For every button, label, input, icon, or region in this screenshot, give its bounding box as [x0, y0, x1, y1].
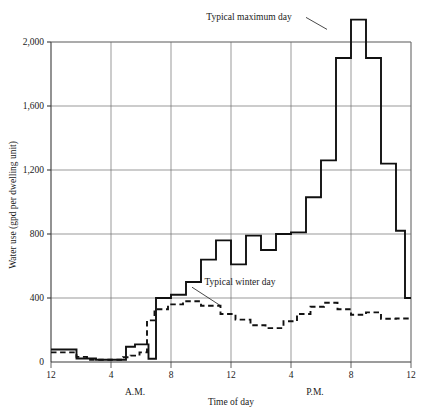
- y-axis-title: Water use (gpd per dwelling unit): [8, 141, 19, 269]
- x-period-label: A.M.: [125, 387, 145, 397]
- annotation-typical-winter-day: Typical winter day: [204, 277, 275, 287]
- annotation-leader-line-maximum: [306, 17, 327, 29]
- x-tick-marks: [51, 362, 411, 368]
- annotation-layer: Typical maximum dayTypical winter day: [192, 12, 327, 305]
- y-tick-label: 1,200: [23, 165, 45, 175]
- y-tick-label: 2,000: [23, 37, 45, 47]
- x-period-label: P.M.: [306, 387, 323, 397]
- x-tick-label: 4: [109, 370, 114, 380]
- y-tick-labels: 04008001,2001,6002,000: [23, 37, 51, 367]
- x-period-labels: A.M.P.M.: [125, 387, 324, 397]
- annotation-leader-line-winter: [192, 287, 221, 305]
- y-tick-label: 0: [39, 357, 44, 367]
- x-tick-labels: 1248124812: [46, 370, 416, 380]
- y-tick-label: 1,600: [23, 101, 45, 111]
- x-tick-label: 4: [289, 370, 294, 380]
- x-tick-label: 8: [349, 370, 354, 380]
- y-tick-label: 400: [30, 293, 45, 303]
- x-axis-title: Time of day: [208, 397, 254, 407]
- x-tick-label: 12: [406, 370, 416, 380]
- x-tick-label: 12: [46, 370, 56, 380]
- x-tick-label: 8: [169, 370, 174, 380]
- x-tick-label: 12: [226, 370, 236, 380]
- annotation-typical-maximum-day: Typical maximum day: [206, 12, 292, 22]
- water-use-chart: 04008001,2001,6002,000 1248124812 A.M.P.…: [0, 0, 435, 412]
- y-tick-label: 800: [30, 229, 45, 239]
- chart-canvas: 04008001,2001,6002,000 1248124812 A.M.P.…: [0, 0, 435, 412]
